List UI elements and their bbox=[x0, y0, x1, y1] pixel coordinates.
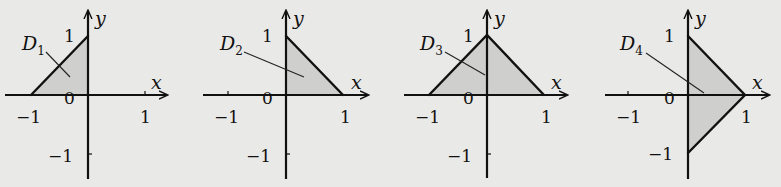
panel-d2: D2 y x 1 0 −1 1 −1 bbox=[203, 7, 368, 179]
label-d4: D4 bbox=[619, 32, 643, 58]
tick-label-origin: 0 bbox=[463, 88, 474, 108]
tick-label-x-neg1: −1 bbox=[16, 107, 41, 127]
axis-label-y: y bbox=[292, 7, 304, 29]
tick-label-y-1: 1 bbox=[262, 26, 273, 46]
panel-d4: D4 y x 1 0 −1 1 −1 bbox=[605, 7, 769, 179]
axis-label-y: y bbox=[694, 7, 706, 29]
tick-label-y-neg1: −1 bbox=[48, 146, 73, 166]
axis-label-y: y bbox=[493, 7, 505, 29]
tick-label-origin: 0 bbox=[64, 88, 75, 108]
axis-label-y: y bbox=[94, 7, 106, 29]
label-d1: D1 bbox=[21, 32, 45, 58]
axis-label-x: x bbox=[752, 71, 763, 93]
panel-d3: D3 y x 1 0 −1 1 −1 bbox=[404, 7, 567, 178]
tick-label-y-1: 1 bbox=[64, 26, 75, 46]
axis-label-x: x bbox=[151, 71, 162, 93]
label-d2: D2 bbox=[219, 32, 243, 58]
tick-label-y-neg1: −1 bbox=[447, 146, 472, 166]
tick-label-x-neg1: −1 bbox=[616, 107, 641, 127]
tick-label-y-1: 1 bbox=[664, 26, 675, 46]
tick-label-y-1: 1 bbox=[463, 26, 474, 46]
tick-label-x-1: 1 bbox=[741, 107, 752, 127]
axis-label-x: x bbox=[351, 71, 362, 93]
label-d3: D3 bbox=[419, 32, 443, 58]
tick-label-x-neg1: −1 bbox=[214, 107, 239, 127]
tick-label-origin: 0 bbox=[262, 88, 273, 108]
tick-label-x-1: 1 bbox=[140, 107, 151, 127]
axis-label-x: x bbox=[551, 71, 562, 93]
panel-d1: D1 y x 1 0 −1 1 −1 bbox=[5, 7, 167, 179]
tick-label-x-1: 1 bbox=[340, 107, 351, 127]
region-diagrams: D1 y x 1 0 −1 1 −1 D2 y x 1 0 −1 1 −1 D3… bbox=[0, 0, 781, 187]
tick-label-x-1: 1 bbox=[541, 107, 552, 127]
tick-label-y-neg1: −1 bbox=[246, 146, 271, 166]
tick-label-y-neg1: −1 bbox=[648, 144, 673, 164]
tick-label-x-neg1: −1 bbox=[415, 107, 440, 127]
tick-label-origin: 0 bbox=[664, 88, 675, 108]
